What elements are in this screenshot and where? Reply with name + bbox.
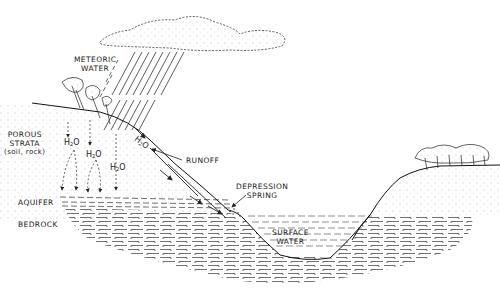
label-bedrock: BEDROCK [18,220,58,229]
cloud-icon [100,16,285,50]
label-spring: SPRING [236,191,288,200]
label-depression: DEPRESSION [236,182,288,191]
label-water: WATER [74,64,116,73]
label-surface: SURFACE [272,228,309,237]
label-porous-strata: POROUS STRATA (soil, rock) [4,130,45,157]
label-aquifer: AQUIFER [18,198,54,207]
label-depression-spring: DEPRESSION SPRING [236,182,288,200]
label-runoff: RUNOFF [186,156,219,165]
label-soil-rock: (soil, rock) [4,148,45,157]
label-porous: POROUS [4,130,45,139]
label-surface-water: SURFACE WATER [272,228,309,246]
label-meteoric: METEORIC [74,55,116,64]
diagram-artwork [0,0,500,303]
hydrologic-cycle-diagram: METEORIC WATER POROUS STRATA (soil, rock… [0,0,500,303]
label-meteoric-water: METEORIC WATER [74,55,116,73]
label-strata: STRATA [4,139,45,148]
bedrock-layer [65,208,473,284]
h2o-marker-3: H2O [110,163,126,172]
h2o-marker-1: H2O [64,138,80,147]
label-water-2: WATER [272,237,309,246]
h2o-marker-2: H2O [86,150,102,159]
